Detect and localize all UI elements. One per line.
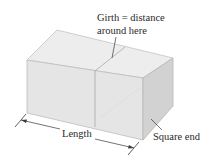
length-arrow-left (21, 120, 60, 129)
box-girth-diagram: Girth = distance around here Length Squa… (0, 0, 220, 167)
arrowhead-left-icon (21, 120, 27, 124)
length-tick-right (128, 142, 139, 155)
square-end-label: Square end (153, 131, 200, 143)
girth-label-line2: around here (97, 25, 147, 37)
girth-label-line1: Girth = distance (97, 12, 165, 24)
length-label: Length (62, 128, 92, 140)
length-arrow-right (95, 139, 134, 148)
arrowhead-right-icon (128, 145, 134, 149)
